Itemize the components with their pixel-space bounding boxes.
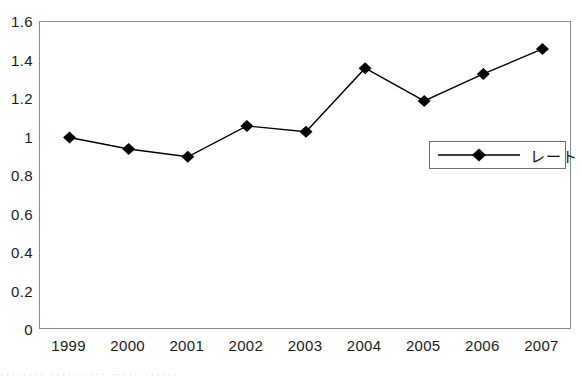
x-tick-label: 1999 xyxy=(51,338,86,353)
x-tick-label: 2003 xyxy=(288,338,323,353)
line-chart-figure: 1.61.41.210.80.60.40.20 1999200020012002… xyxy=(0,0,581,379)
y-tick-label: 0.2 xyxy=(0,284,33,299)
legend: レート xyxy=(429,141,566,169)
legend-item-label: レート xyxy=(530,145,578,166)
data-point-marker xyxy=(240,120,253,132)
data-point-marker xyxy=(122,143,135,155)
y-tick-label: 0.4 xyxy=(0,245,33,260)
data-point-marker xyxy=(477,68,490,80)
x-tick-label: 2006 xyxy=(465,338,500,353)
y-tick-label: 1.2 xyxy=(0,91,33,106)
plot-area xyxy=(39,21,571,329)
legend-line-marker-icon xyxy=(436,147,522,163)
scan-artifact: ········ ····· ···· ····· ······ xyxy=(0,368,581,379)
y-axis: 1.61.41.210.80.60.40.20 xyxy=(0,0,33,379)
x-axis: 199920002001200220032004200520062007 xyxy=(39,338,571,362)
y-tick-label: 1 xyxy=(0,130,33,145)
y-tick-label: 0.8 xyxy=(0,168,33,183)
y-tick-label: 0 xyxy=(0,322,33,337)
y-tick-label: 1.4 xyxy=(0,53,33,68)
data-point-marker xyxy=(536,43,549,55)
legend-item-rate: レート xyxy=(436,145,559,166)
x-tick-label: 2002 xyxy=(229,338,264,353)
y-tick-label: 1.6 xyxy=(0,14,33,29)
series-plot xyxy=(40,22,572,330)
data-point-marker xyxy=(181,151,194,163)
y-tick-label: 0.6 xyxy=(0,207,33,222)
x-tick-label: 2001 xyxy=(169,338,204,353)
x-tick-label: 2004 xyxy=(347,338,382,353)
x-tick-label: 2007 xyxy=(524,338,559,353)
x-tick-label: 2005 xyxy=(406,338,441,353)
x-tick-label: 2000 xyxy=(110,338,145,353)
data-point-marker xyxy=(418,95,431,107)
data-point-marker xyxy=(63,132,76,144)
